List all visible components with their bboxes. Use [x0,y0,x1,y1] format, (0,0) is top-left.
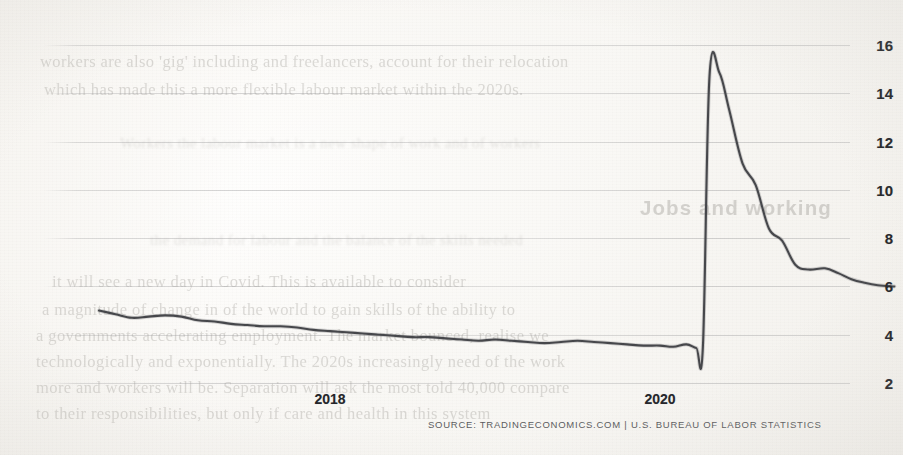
y-axis-tick-label: 6 [859,278,893,295]
gridline [44,286,850,287]
x-axis-tick-label: 2020 [644,391,675,407]
gridline [44,335,850,336]
chart-plot-line [0,0,903,455]
y-axis-tick-label: 2 [859,375,893,392]
gridline [44,238,850,239]
photo-vignette [0,0,903,455]
ghost-text-line: Jobs and working [640,196,832,220]
ghost-text-line: which has made this a more flexible labo… [44,80,524,100]
ghost-text-line: a governments accelerating employment. T… [36,326,549,346]
gridline [44,93,850,94]
y-axis-tick-label: 14 [859,85,893,102]
series-line-us-unemployment-rate [99,52,894,369]
paper-background [0,0,903,455]
scan-grain-overlay [0,0,903,455]
gridline [44,190,850,191]
ghost-text-line: the demand for labour and the balance of… [150,232,523,249]
source-attribution: SOURCE: TRADINGECONOMICS.COM | U.S. BURE… [428,419,822,430]
gridline [44,142,850,143]
ghost-text-line: technologically and exponentially. The 2… [36,352,566,372]
y-axis-tick-label: 16 [859,37,893,54]
y-axis-tick-label: 12 [859,133,893,150]
series-line-halo [99,52,894,369]
gridline [44,383,850,384]
ghost-text-line: it will see a new day in Covid. This is … [52,272,466,292]
ghost-text-line: to their responsibilities, but only if c… [36,404,491,424]
ghost-text-line: more and workers will be. Separation wil… [36,378,570,398]
ghost-text-line: workers are also 'gig' including and fre… [40,52,569,72]
gridline [44,45,850,46]
x-axis-tick-label: 2018 [314,391,345,407]
y-axis-tick-label: 4 [859,326,893,343]
unemployment-rate-line-chart: 161412108642 20182020 SOURCE: TRADINGECO… [0,0,903,455]
unemployment-series-svg [0,0,903,455]
ghost-text-line: Workers the labour market is a new shape… [120,135,541,152]
ghost-text-line: a magnitude of change in of the world to… [42,300,516,320]
y-axis-tick-label: 10 [859,181,893,198]
y-axis-tick-label: 8 [859,230,893,247]
